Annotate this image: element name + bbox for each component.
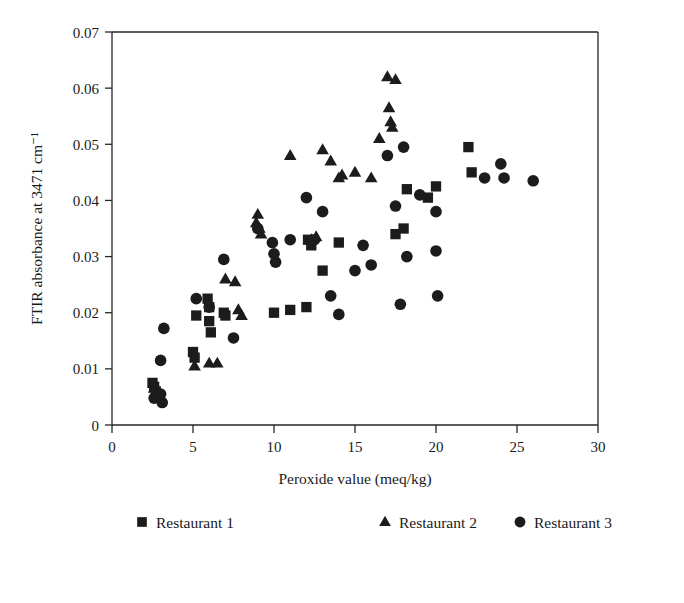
x-tick-label-3: 15 xyxy=(348,439,363,455)
data-point-square-15 xyxy=(301,302,311,312)
data-point-circle-17 xyxy=(317,206,329,218)
data-point-circle-5 xyxy=(155,355,167,367)
legend-marker-triangle xyxy=(379,516,391,526)
legend-entry-1[interactable]: Restaurant 1 xyxy=(137,514,234,531)
data-point-circle-31 xyxy=(432,290,444,302)
data-point-circle-22 xyxy=(365,259,377,271)
y-tick-label-6: 0.06 xyxy=(73,81,100,97)
y-tick-label-0: 0 xyxy=(92,418,100,434)
x-tick-label-0: 0 xyxy=(108,439,116,455)
data-markers-group xyxy=(147,70,539,408)
y-tick-label-4: 0.04 xyxy=(73,193,100,209)
data-point-circle-18 xyxy=(325,290,337,302)
y-tick-label-5: 0.05 xyxy=(73,137,99,153)
data-point-triangle-10 xyxy=(252,208,265,219)
legend-marker-circle xyxy=(515,517,526,528)
x-tick-label-4: 20 xyxy=(429,439,444,455)
data-point-circle-3 xyxy=(156,397,168,409)
data-point-circle-13 xyxy=(270,256,282,268)
legend-label-3: Restaurant 3 xyxy=(534,514,612,531)
data-point-circle-15 xyxy=(301,192,313,204)
data-point-circle-19 xyxy=(333,309,345,321)
data-point-circle-27 xyxy=(401,251,413,263)
y-tick-label-7: 0.07 xyxy=(73,25,100,41)
data-point-square-6 xyxy=(191,310,201,320)
data-point-triangle-13 xyxy=(284,149,297,160)
data-point-circle-7 xyxy=(203,301,215,313)
data-point-triangle-21 xyxy=(365,171,378,182)
y-tick-label-3: 0.03 xyxy=(73,249,99,265)
y-axis-title: FTIR absorbance at 3471 cm⁻¹ xyxy=(28,132,45,325)
data-point-circle-23 xyxy=(382,150,394,162)
data-point-circle-8 xyxy=(218,254,230,266)
data-point-square-18 xyxy=(317,265,327,275)
x-tick-label-5: 25 xyxy=(510,439,525,455)
data-point-circle-35 xyxy=(527,175,539,187)
legend-group: Restaurant 1Restaurant 2Restaurant 3 xyxy=(137,514,612,531)
legend-entry-3[interactable]: Restaurant 3 xyxy=(515,514,613,531)
data-point-triangle-17 xyxy=(324,155,337,166)
axes-group xyxy=(105,32,598,433)
legend-label-1: Restaurant 1 xyxy=(156,514,234,531)
data-point-triangle-6 xyxy=(229,275,242,286)
data-point-square-13 xyxy=(269,308,279,318)
data-point-square-24 xyxy=(431,181,441,191)
x-tick-label-2: 10 xyxy=(267,439,282,455)
axis-labels-group: 00.010.020.030.040.050.060.0705101520253… xyxy=(28,25,606,489)
legend-label-2: Restaurant 2 xyxy=(399,514,477,531)
data-point-triangle-20 xyxy=(349,166,362,177)
data-point-circle-29 xyxy=(430,206,442,218)
data-point-square-14 xyxy=(285,305,295,315)
data-point-circle-10 xyxy=(252,223,264,235)
data-point-circle-16 xyxy=(309,234,321,246)
data-point-circle-28 xyxy=(414,189,426,201)
x-tick-label-6: 30 xyxy=(591,439,606,455)
data-point-circle-4 xyxy=(158,323,170,335)
data-point-square-19 xyxy=(334,237,344,247)
legend-entry-2[interactable]: Restaurant 2 xyxy=(379,514,477,531)
data-point-square-25 xyxy=(463,142,473,152)
data-point-triangle-22 xyxy=(373,132,386,143)
data-point-circle-6 xyxy=(190,293,202,305)
data-point-circle-26 xyxy=(398,141,410,153)
data-point-circle-30 xyxy=(430,245,442,257)
data-point-circle-14 xyxy=(284,234,296,246)
data-point-circle-21 xyxy=(357,240,369,252)
y-tick-label-2: 0.02 xyxy=(73,305,99,321)
legend-marker-square xyxy=(137,517,147,527)
data-point-circle-25 xyxy=(395,298,407,310)
data-point-square-12 xyxy=(220,310,230,320)
data-point-circle-9 xyxy=(228,332,240,344)
data-point-square-21 xyxy=(398,223,408,233)
data-point-triangle-4 xyxy=(211,357,224,368)
data-point-circle-32 xyxy=(479,172,491,184)
data-point-triangle-5 xyxy=(219,272,232,283)
data-point-square-10 xyxy=(206,327,216,337)
data-point-triangle-24 xyxy=(383,101,396,112)
data-point-circle-34 xyxy=(498,172,510,184)
data-point-circle-11 xyxy=(267,237,279,249)
figure-container: 00.010.020.030.040.050.060.0705101520253… xyxy=(0,0,684,603)
data-point-triangle-16 xyxy=(316,143,329,154)
data-point-square-9 xyxy=(204,316,214,326)
y-tick-label-1: 0.01 xyxy=(73,361,99,377)
data-point-circle-33 xyxy=(495,158,507,170)
x-tick-label-1: 5 xyxy=(189,439,197,455)
data-point-square-22 xyxy=(402,184,412,194)
series-restaurant-2 xyxy=(148,70,402,398)
scatter-plot: 00.010.020.030.040.050.060.0705101520253… xyxy=(0,0,684,603)
x-axis-title: Peroxide value (meq/kg) xyxy=(278,470,431,488)
data-point-circle-24 xyxy=(390,200,402,212)
data-point-square-26 xyxy=(466,167,476,177)
data-point-circle-20 xyxy=(349,265,361,277)
series-restaurant-1 xyxy=(147,142,476,401)
